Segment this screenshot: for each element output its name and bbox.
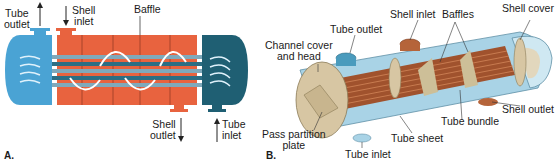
tube-inlet-nozzle-3d [353, 134, 371, 142]
label-b-tube-sheet: Tube sheet [391, 133, 443, 144]
label-a-tube-inlet: Tube inlet [222, 119, 246, 141]
shell-outlet-nozzle-3d [478, 98, 498, 106]
panel-label-a: A. [4, 150, 14, 161]
panel-label-b: B. [266, 150, 276, 161]
label-b-tube-inlet: Tube inlet [345, 149, 391, 160]
label-b-channel-cover: Channel cover and head [265, 40, 333, 62]
label-b-tube-bundle: Tube bundle [441, 116, 499, 127]
label-b-baffles: Baffles [442, 9, 474, 20]
label-a-baffle: Baffle [134, 4, 161, 15]
label-b-shell-cover: Shell cover [502, 3, 554, 14]
label-b-pass-partition: Pass partition plate [262, 129, 326, 151]
label-b-shell-inlet: Shell inlet [390, 9, 436, 20]
label-a-shell-inlet: Shell inlet [72, 5, 95, 27]
label-a-shell-outlet: Shell outlet [150, 119, 176, 141]
label-a-tube-outlet: Tube outlet [4, 8, 30, 30]
label-b-tube-outlet: Tube outlet [330, 24, 382, 35]
label-b-shell-outlet: Shell outlet [502, 104, 554, 115]
